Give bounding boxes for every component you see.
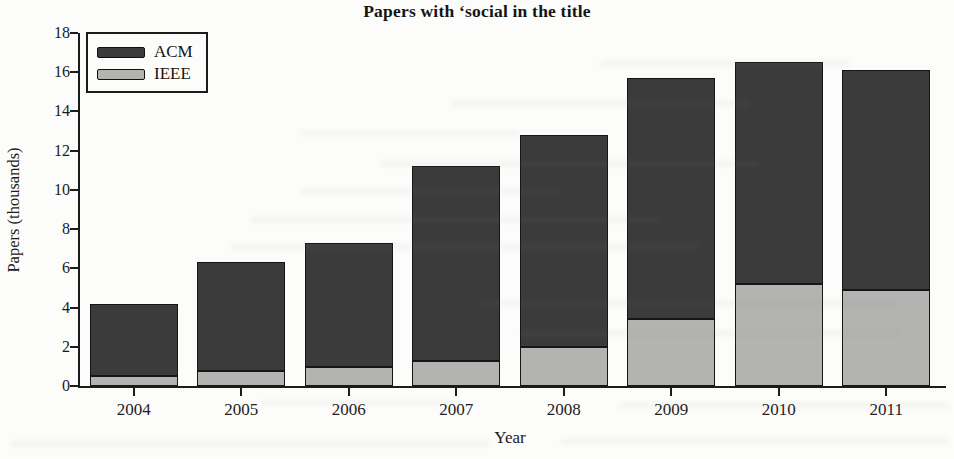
y-tick-18 bbox=[70, 32, 78, 34]
x-axis-title: Year bbox=[494, 428, 525, 448]
bar-segment-ieee-2004 bbox=[90, 376, 178, 386]
bar-segment-ieee-2010 bbox=[735, 284, 823, 386]
x-tick-2005 bbox=[240, 388, 242, 396]
bar-segment-ieee-2005 bbox=[197, 371, 285, 386]
y-tick-label-10: 10 bbox=[54, 181, 70, 199]
y-tick-14 bbox=[70, 110, 78, 112]
x-tick-2010 bbox=[778, 388, 780, 396]
bar-segment-acm-2010 bbox=[735, 62, 823, 284]
y-tick-4 bbox=[70, 307, 78, 309]
scanned-figure-page: Papers with ‘social in the title ACM IEE… bbox=[0, 0, 954, 459]
legend-label-ieee: IEEE bbox=[154, 64, 191, 84]
x-tick-2011 bbox=[885, 388, 887, 396]
y-tick-label-4: 4 bbox=[62, 299, 70, 317]
legend-label-acm: ACM bbox=[154, 42, 193, 62]
y-axis-title: Papers (thousands) bbox=[4, 147, 24, 272]
x-tick-2004 bbox=[133, 388, 135, 396]
x-tick-label-2010: 2010 bbox=[762, 400, 796, 420]
y-tick-label-8: 8 bbox=[62, 220, 70, 238]
y-tick-2 bbox=[70, 346, 78, 348]
x-tick-label-2009: 2009 bbox=[654, 400, 688, 420]
bar-segment-acm-2005 bbox=[197, 262, 285, 371]
bar-segment-acm-2008 bbox=[520, 135, 608, 347]
legend-item-acm: ACM bbox=[97, 41, 197, 63]
y-tick-label-14: 14 bbox=[54, 102, 70, 120]
bar-segment-ieee-2006 bbox=[305, 367, 393, 386]
y-tick-10 bbox=[70, 189, 78, 191]
y-tick-label-2: 2 bbox=[62, 338, 70, 356]
y-tick-0 bbox=[70, 385, 78, 387]
bar-segment-ieee-2009 bbox=[627, 319, 715, 386]
plot-area: ACM IEEE 0246810121416182004200520062007… bbox=[80, 33, 940, 386]
bar-segment-ieee-2011 bbox=[842, 290, 930, 386]
bar-segment-ieee-2007 bbox=[412, 361, 500, 386]
bar-segment-acm-2011 bbox=[842, 70, 930, 290]
x-tick-label-2006: 2006 bbox=[332, 400, 366, 420]
y-tick-label-16: 16 bbox=[54, 63, 70, 81]
bar-segment-acm-2007 bbox=[412, 166, 500, 361]
chart-title: Papers with ‘social in the title bbox=[0, 1, 954, 22]
y-tick-6 bbox=[70, 267, 78, 269]
y-tick-label-0: 0 bbox=[62, 377, 70, 395]
x-tick-2007 bbox=[455, 388, 457, 396]
x-tick-label-2007: 2007 bbox=[439, 400, 473, 420]
y-tick-16 bbox=[70, 71, 78, 73]
x-tick-label-2011: 2011 bbox=[870, 400, 903, 420]
y-tick-label-6: 6 bbox=[62, 259, 70, 277]
y-axis-line bbox=[78, 33, 80, 388]
bar-segment-acm-2004 bbox=[90, 304, 178, 377]
y-tick-label-12: 12 bbox=[54, 142, 70, 160]
legend: ACM IEEE bbox=[86, 32, 208, 93]
x-tick-label-2008: 2008 bbox=[547, 400, 581, 420]
y-tick-12 bbox=[70, 150, 78, 152]
legend-swatch-ieee bbox=[97, 69, 145, 80]
x-tick-2006 bbox=[348, 388, 350, 396]
legend-swatch-acm bbox=[97, 47, 145, 58]
y-tick-8 bbox=[70, 228, 78, 230]
x-tick-2009 bbox=[670, 388, 672, 396]
bar-segment-ieee-2008 bbox=[520, 347, 608, 386]
y-tick-label-18: 18 bbox=[54, 24, 70, 42]
bar-segment-acm-2006 bbox=[305, 243, 393, 368]
legend-item-ieee: IEEE bbox=[97, 63, 197, 85]
bar-segment-acm-2009 bbox=[627, 78, 715, 319]
x-tick-label-2004: 2004 bbox=[117, 400, 151, 420]
x-axis-line bbox=[78, 386, 946, 388]
x-tick-label-2005: 2005 bbox=[224, 400, 258, 420]
x-tick-2008 bbox=[563, 388, 565, 396]
